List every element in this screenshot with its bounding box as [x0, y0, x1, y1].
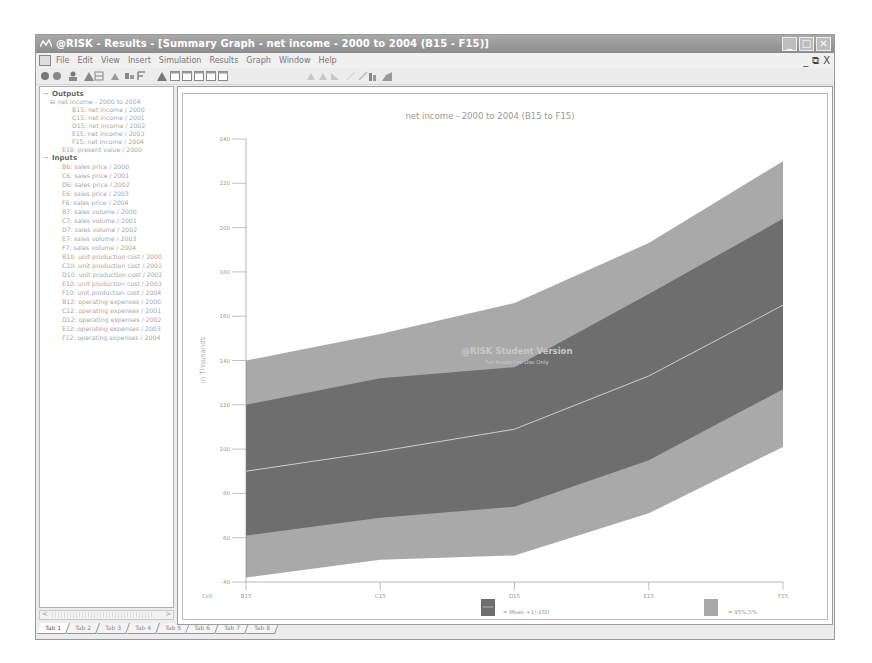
tree-input-item[interactable]: D12: operating expenses / 2002 [62, 316, 162, 324]
collapse-icon[interactable]: ⊟ [50, 98, 55, 105]
risk-app-icon [40, 39, 52, 48]
save-icon[interactable] [52, 71, 62, 81]
tree-input-item[interactable]: C10: unit production cost / 2001 [62, 262, 162, 270]
tree-input-item[interactable]: B6: sales price / 2000 [62, 163, 129, 171]
histogram-icon[interactable] [318, 71, 328, 81]
open-icon[interactable] [40, 71, 50, 81]
tree-input-item[interactable]: B7: sales volume / 2000 [62, 208, 137, 216]
tab-label: Tab 7 [225, 624, 241, 632]
sensitivity-icon[interactable] [125, 71, 135, 81]
window-icon[interactable] [170, 71, 180, 81]
tree-input-item[interactable]: E7: sales volume / 2003 [62, 235, 136, 243]
tree-input-item[interactable]: F7: sales volume / 2004 [62, 244, 136, 252]
menu-window[interactable]: Window [279, 53, 311, 68]
users-icon[interactable] [68, 71, 78, 81]
tree-input-item[interactable]: C6: sales price / 2001 [62, 172, 129, 180]
tree-output-item[interactable]: E15: net income / 2003 [72, 130, 144, 138]
tree-output-item[interactable]: C15: net income / 2001 [72, 114, 145, 122]
scroll-right-arrow-icon[interactable]: > [165, 610, 171, 618]
tab-label: Tab 8 [254, 624, 270, 632]
tree-output-item[interactable]: D15: net income / 2002 [72, 122, 145, 130]
menu-graph[interactable]: Graph [246, 53, 271, 68]
triangle-icon[interactable] [110, 71, 120, 81]
window-title: @RISK - Results - [Summary Graph - net i… [56, 35, 489, 53]
tab-label: Tab 3 [105, 624, 121, 632]
histogram-icon[interactable] [306, 71, 316, 81]
collapse-outputs-icon[interactable]: − [43, 90, 49, 98]
tab-label: Tab 2 [75, 624, 91, 632]
tree-input-item[interactable]: E10: unit production cost / 2003 [62, 280, 162, 288]
tab-label: Tab 4 [135, 624, 151, 632]
menu-help[interactable]: Help [318, 53, 336, 68]
line-icon[interactable] [346, 71, 356, 81]
tree-output-item[interactable]: B15: net income / 2000 [72, 106, 145, 114]
menu-file[interactable]: File [56, 53, 69, 68]
window-icon[interactable] [182, 71, 192, 81]
tree-input-item[interactable]: B10: unit production cost / 2000 [62, 253, 162, 261]
tab-2[interactable]: Tab 2 [67, 623, 100, 634]
tab-label: Tab 1 [45, 624, 61, 632]
toolbar [36, 68, 834, 85]
tree-input-item[interactable]: C7: sales volume / 2001 [62, 217, 137, 225]
tree-horizontal-scrollbar[interactable]: < > [39, 610, 174, 620]
tree-input-item[interactable]: E12: operating expenses / 2003 [62, 325, 161, 333]
tab-label: Tab 5 [165, 624, 181, 632]
summary-graph-panel [177, 86, 833, 625]
tree-input-item[interactable]: F6: sales price / 2004 [62, 199, 128, 207]
tree-output-group[interactable]: net income - 2000 to 2004 [58, 98, 141, 106]
minimize-button[interactable]: _ [782, 37, 797, 51]
menu-edit[interactable]: Edit [77, 53, 93, 68]
scroll-left-arrow-icon[interactable]: < [42, 610, 48, 618]
window-icon[interactable] [206, 71, 216, 81]
bar-icon[interactable] [368, 71, 378, 81]
menu-results[interactable]: Results [209, 53, 238, 68]
histogram-icon[interactable] [330, 71, 340, 81]
results-tree: − Outputs ⊟ net income - 2000 to 2004 B1… [39, 86, 174, 608]
close-button[interactable]: ✕ [816, 37, 831, 51]
tree-group-outputs[interactable]: Outputs [52, 90, 84, 98]
menu-view[interactable]: View [101, 53, 120, 68]
tab-label: Tab 6 [195, 624, 211, 632]
tab-3[interactable]: Tab 3 [97, 623, 130, 634]
tree-output-item[interactable]: F15: net income / 2004 [72, 138, 144, 146]
graph-icon[interactable] [157, 71, 167, 81]
maximize-button[interactable]: □ [799, 37, 814, 51]
tree-input-item[interactable]: F12: operating expenses / 2004 [62, 334, 160, 342]
tree-group-inputs[interactable]: Inputs [52, 154, 77, 162]
window-icon[interactable] [194, 71, 204, 81]
area-icon[interactable] [382, 71, 392, 81]
tree-input-item[interactable]: E6: sales price / 2003 [62, 190, 129, 198]
window-icon[interactable] [218, 71, 228, 81]
menu-insert[interactable]: Insert [128, 53, 151, 68]
tree-input-item[interactable]: D7: sales volume / 2002 [62, 226, 137, 234]
tree-input-item[interactable]: D6: sales price / 2002 [62, 181, 130, 189]
collapse-inputs-icon[interactable]: − [43, 154, 49, 162]
tree-input-item[interactable]: D10: unit production cost / 2002 [62, 271, 162, 279]
tree-input-item[interactable]: F10: unit production cost / 2004 [62, 289, 161, 297]
tab-1[interactable]: Tab 1 [37, 623, 70, 634]
app-window: @RISK - Results - [Summary Graph - net i… [35, 34, 835, 640]
mdi-restore-button[interactable]: ⧉ [812, 54, 819, 67]
scenario-icon[interactable] [137, 71, 147, 81]
mdi-close-button[interactable]: X [823, 54, 830, 67]
mdi-minimize-button[interactable]: _ [803, 54, 808, 67]
line-icon[interactable] [358, 71, 368, 81]
tree-output-item[interactable]: E18: present value / 2000 [62, 146, 142, 154]
title-bar[interactable]: @RISK - Results - [Summary Graph - net i… [36, 35, 834, 53]
tree-input-item[interactable]: C12: operating expenses / 2001 [62, 307, 161, 315]
chart-icon[interactable] [84, 71, 94, 81]
tab-4[interactable]: Tab 4 [127, 623, 160, 634]
tree-input-item[interactable]: B12: operating expenses / 2000 [62, 298, 161, 306]
scrollbar-thumb[interactable] [52, 612, 152, 618]
document-icon[interactable] [39, 55, 51, 66]
menu-simulation[interactable]: Simulation [159, 53, 202, 68]
table-icon[interactable] [94, 71, 104, 81]
menu-bar: File Edit View Insert Simulation Results… [36, 53, 834, 68]
